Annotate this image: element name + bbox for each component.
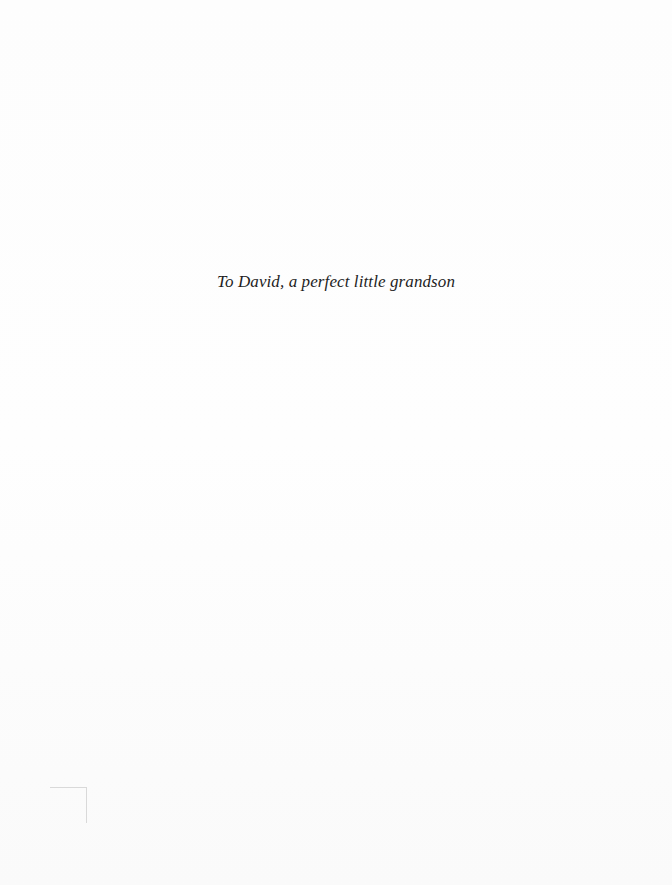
dedication-text: To David, a perfect little grandson — [0, 272, 672, 292]
crop-mark-icon — [50, 787, 87, 823]
book-page: To David, a perfect little grandson — [0, 0, 672, 885]
